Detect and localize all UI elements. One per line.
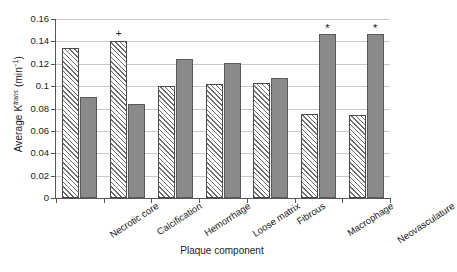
bar-present	[128, 104, 145, 198]
y-axis-title-text: Average K	[13, 105, 24, 152]
bar-groups: +**	[56, 19, 390, 198]
y-tick-label: 0.16	[31, 14, 50, 24]
bar-group	[56, 19, 104, 198]
bar-group: +	[104, 19, 152, 198]
bar-group: *	[342, 19, 390, 198]
bar-group	[247, 19, 295, 198]
bar-group: *	[295, 19, 343, 198]
bar-absent	[206, 84, 223, 198]
bar-absent	[158, 86, 175, 198]
bar-present	[224, 63, 241, 198]
bar-absent: +	[110, 41, 127, 198]
y-tick-label: 0.04	[31, 149, 50, 159]
y-axis-title-superscript: trans	[13, 90, 24, 105]
x-tick-label: Loose matrix	[251, 201, 302, 239]
bar-present: *	[319, 34, 336, 198]
x-axis-title: Plaque component	[55, 245, 389, 256]
bar-group	[151, 19, 199, 198]
y-axis-title-units: (min−1)	[13, 56, 24, 87]
bar-absent	[301, 114, 318, 198]
plot-area: 0.16 0.14 0.12 0.1 0.08 0.06 0.04 0.02 0…	[55, 19, 390, 199]
y-axis-title: Average Ktrans (min−1)	[12, 14, 24, 194]
significance-marker: *	[325, 23, 329, 34]
y-tick-label: 0	[44, 193, 49, 203]
bar-group	[199, 19, 247, 198]
x-tick-label: Necrotic core	[108, 201, 160, 239]
significance-marker: *	[373, 23, 377, 34]
y-tick-label: 0.06	[31, 126, 50, 136]
bar-present	[80, 97, 97, 198]
bar-absent	[349, 115, 366, 198]
x-tick-label: Fibrous	[295, 201, 327, 226]
x-tick-label: Macrophage	[346, 201, 395, 238]
bar-present	[176, 59, 193, 198]
x-tick-label: Calcification	[155, 201, 203, 237]
y-tick-label: 0.08	[31, 104, 50, 114]
bar-present	[271, 78, 288, 198]
significance-marker: +	[116, 29, 122, 39]
bar-absent	[253, 83, 270, 198]
bar-present: *	[367, 34, 384, 198]
y-tick-label: 0.02	[31, 171, 50, 181]
bar-absent	[62, 48, 79, 198]
y-tick-label: 0.12	[31, 59, 50, 69]
x-tick-label: Neovasculature	[396, 201, 457, 245]
x-tick-label: Hemorrhage	[203, 201, 252, 238]
y-tick-label: 0.14	[31, 37, 50, 47]
y-tick-label: 0.1	[36, 81, 49, 91]
